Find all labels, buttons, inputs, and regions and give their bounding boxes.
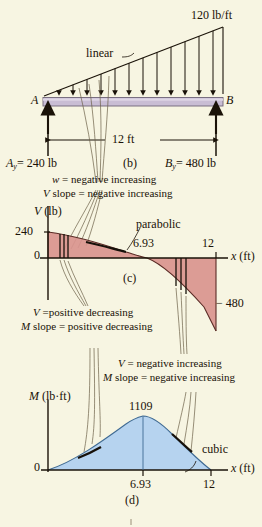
leader-curves-moment-upper <box>176 288 187 354</box>
shear-x-axis-symbol: x <box>231 249 236 263</box>
shear-axis-symbol: V <box>34 204 41 218</box>
annotation-middle-line1-symbol: V <box>33 306 40 318</box>
shear-axis-label: V (lb) <box>34 205 62 217</box>
shear-tick-label-zero: 0 <box>34 249 40 261</box>
load-magnitude-label: 120 lb/ft <box>191 9 232 21</box>
moment-axis-unit: (lb·ft) <box>42 389 71 403</box>
leader-curves-m-left <box>84 348 100 452</box>
shear-tick-label-min: − 480 <box>216 297 244 309</box>
beam-highlight <box>43 99 223 101</box>
annotation-lower-line2-text: slope = negative increasing <box>115 371 235 383</box>
moment-peak-label: 1109 <box>129 400 153 412</box>
leader-curves-top <box>79 76 109 182</box>
shear-tick-label-crossing: 6.93 <box>133 237 154 249</box>
figure-canvas: 120 lb/ft linear A B 12 ft Ay= 240 lb By… <box>0 0 262 527</box>
load-shape-label: linear <box>86 47 113 59</box>
annotation-middle-line2-text: slope = positive decreasing <box>33 320 153 332</box>
annotation-lower-line1: V = negative increasing <box>118 358 222 369</box>
annotation-middle-line2: M slope = positive decreasing <box>21 321 152 332</box>
moment-tick-label-12: 12 <box>203 478 215 490</box>
shear-axis-unit: (lb) <box>44 204 61 218</box>
moment-x-axis-symbol: x <box>231 461 236 475</box>
linear-leader-line <box>122 53 134 57</box>
leader-curves-shear-lower <box>60 260 88 306</box>
annotation-middle-line1: V =positive decreasing <box>33 307 133 318</box>
moment-tick-label-crossing: 6.93 <box>130 478 151 490</box>
reaction-a-value: = 240 lb <box>17 156 57 170</box>
shear-tick-label-240: 240 <box>15 225 33 237</box>
panel-label-b: (b) <box>123 157 137 169</box>
moment-axis-label: M (lb·ft) <box>29 390 71 402</box>
annotation-middle-line1-text: =positive decreasing <box>42 306 133 318</box>
annotation-lower-line2-symbol: M <box>103 371 112 383</box>
reaction-label-a: Ay= 240 lb <box>6 157 57 171</box>
panel-label-d: (d) <box>125 494 139 506</box>
support-label-b: B <box>226 94 233 106</box>
annotation-top-line1-text: = negative increasing <box>62 173 156 185</box>
panel-label-c: (c) <box>123 272 136 284</box>
shear-tick-label-12: 12 <box>202 237 214 249</box>
reaction-label-b: By= 480 lb <box>165 157 216 171</box>
span-length-label: 12 ft <box>112 133 134 145</box>
annotation-middle-line2-symbol: M <box>21 320 30 332</box>
support-label-a: A <box>31 94 38 106</box>
annotation-top-line2-symbol: V <box>43 187 50 199</box>
annotation-lower-line1-text: = negative increasing <box>127 357 221 369</box>
annotation-lower-line1-symbol: V <box>118 357 125 369</box>
moment-tick-label-zero: 0 <box>34 461 40 473</box>
annotation-top-line1: w = negative increasing <box>52 174 156 185</box>
moment-x-axis-label: x (ft) <box>231 462 255 474</box>
moment-x-axis-unit: (ft) <box>239 461 254 475</box>
moment-axis-symbol: M <box>29 389 39 403</box>
shear-x-axis-label: x (ft) <box>231 250 255 262</box>
annotation-top-line2-text: slope = negative increasing <box>52 187 172 199</box>
moment-fill-area <box>48 416 211 470</box>
load-hypotenuse-line <box>44 27 223 96</box>
reaction-b-value: = 480 lb <box>176 156 216 170</box>
shear-x-axis-unit: (ft) <box>239 249 254 263</box>
annotation-lower-line2: M slope = negative increasing <box>103 372 235 383</box>
shear-curve-type-label: parabolic <box>136 218 181 230</box>
annotation-top-line2: V slope = negative increasing <box>43 188 173 199</box>
moment-curve-type-label: cubic <box>202 443 228 455</box>
annotation-top-line1-symbol: w <box>52 173 59 185</box>
